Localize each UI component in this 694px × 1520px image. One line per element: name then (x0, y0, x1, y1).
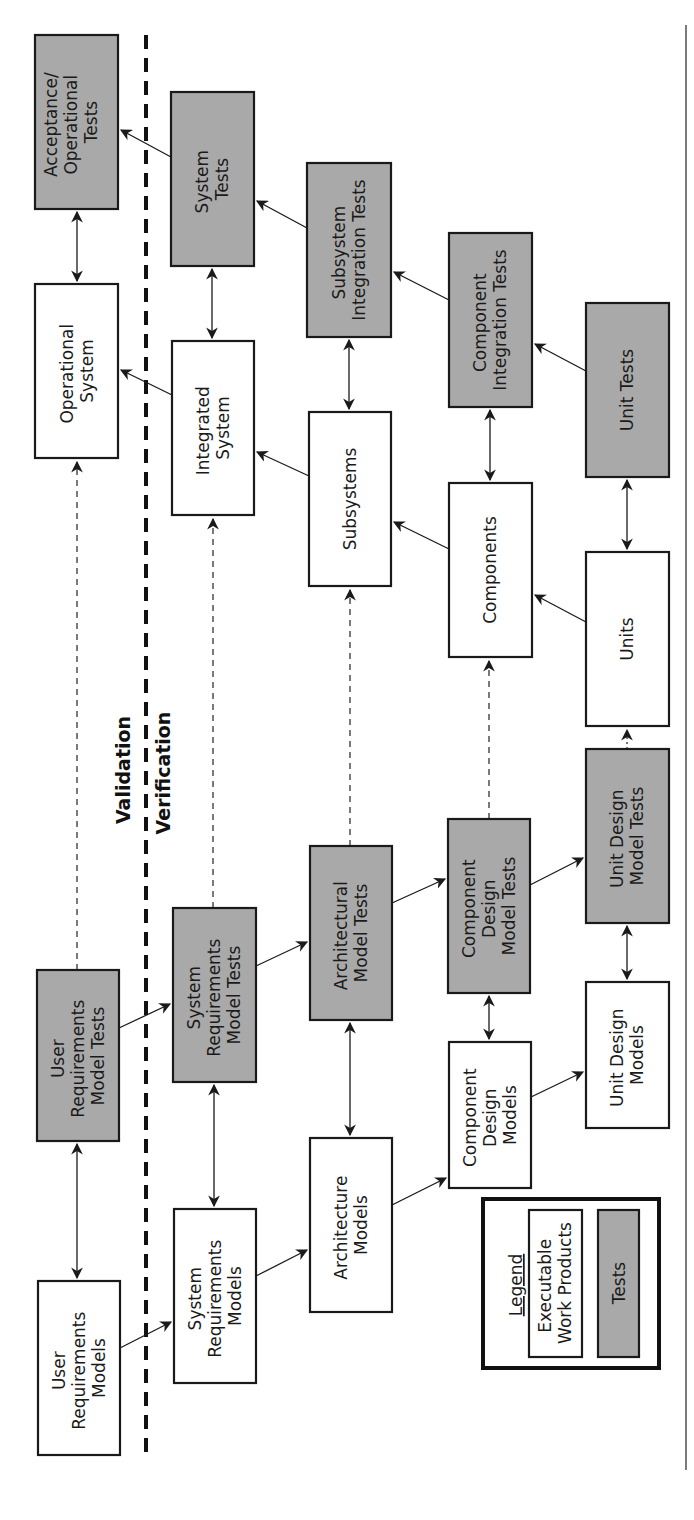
box-subsystem-integration-tests: Subsystem Integration Tests (307, 163, 391, 337)
svg-text:Unit Tests: Unit Tests (617, 349, 637, 431)
arrow-subsystems-to-integrated (257, 452, 309, 476)
svg-text:Executable Work Produc: Executable Work Products (535, 1222, 575, 1344)
svg-text:Component Integration Te: Component Integration Tests (470, 249, 510, 391)
arrow-units-to-components (535, 595, 586, 622)
box-unit-tests: Unit Tests (586, 303, 669, 477)
arrow-subsystem-int-to-system-tests (257, 201, 307, 228)
arrow-sys-req-models-to-architecture-models (256, 1250, 307, 1276)
verification-label: Verification (152, 712, 174, 835)
arrow-architecture-models-to-comp-design-models (392, 1178, 446, 1205)
v-model-diagram: Validation Verification Acceptance/ Oper… (0, 0, 694, 1520)
svg-text:Components: Components (480, 516, 500, 624)
box-unit-design-model-tests: Unit Design Model Tests (586, 749, 669, 923)
box-architecture-models: Architecture Models (310, 1138, 392, 1312)
box-user-requirements-model-tests: User Requirements Model Tests (37, 970, 119, 1141)
legend-item-work-products: Executable Work Products (529, 1210, 582, 1357)
arrow-comp-design-models-to-unit-design-models (531, 1072, 583, 1097)
box-integrated-system: Integrated System (172, 341, 254, 515)
svg-text:Tests: Tests (609, 1262, 629, 1305)
legend: Legend Executable Work Products Tests (483, 1199, 659, 1368)
arrow-arch-tests-to-comp-design-tests (392, 879, 445, 903)
box-components: Components (449, 483, 532, 657)
legend-title: Legend (506, 1254, 526, 1316)
arrow-components-to-subsystems (394, 522, 449, 549)
svg-text:Subsystems: Subsystems (340, 448, 360, 551)
box-architectural-model-tests: Architectural Model Tests (310, 846, 392, 1020)
box-component-design-models: Component Design Models (449, 1042, 531, 1188)
box-system-requirements-models: System Requirements Models (174, 1209, 256, 1383)
arrow-comp-design-tests-to-unit-design-tests (530, 858, 583, 885)
box-subsystems: Subsystems (309, 412, 391, 586)
arrow-component-int-to-subsystem-int (394, 272, 449, 300)
box-component-integration-tests: Component Integration Tests (449, 233, 532, 407)
validation-label: Validation (112, 716, 134, 824)
arrow-unit-tests-to-component-int (535, 344, 586, 371)
legend-item-tests: Tests (598, 1210, 639, 1357)
arrow-sys-req-tests-to-arch-tests (256, 942, 307, 966)
svg-text:Architectural Model Test: Architectural Model Tests (331, 876, 371, 991)
box-operational-system: Operational System (35, 284, 118, 458)
svg-text:Subsystem Integration Te: Subsystem Integration Tests (329, 179, 369, 321)
svg-text:Unit Design Model Tests: Unit Design Model Tests (607, 784, 647, 888)
box-acceptance-operational-tests: Acceptance/ Operational Tests (35, 35, 118, 209)
box-component-design-model-tests: Component Design Model Tests (448, 819, 530, 993)
svg-text:Units: Units (617, 617, 637, 661)
box-units: Units (586, 552, 669, 726)
box-system-requirements-model-tests: System Requirements Model Tests (173, 908, 256, 1082)
box-unit-design-models: Unit Design Models (586, 982, 669, 1128)
box-user-requirements-models: User Requirements Models (38, 1281, 120, 1455)
box-system-tests: System Tests (171, 92, 254, 266)
